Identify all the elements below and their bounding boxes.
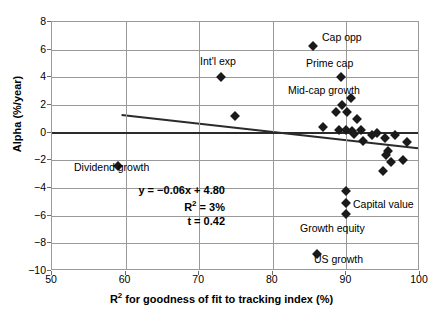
y-tick-label: −2 — [34, 153, 46, 165]
annotation-dividend-growth: Dividend growth — [74, 161, 149, 173]
gridline-horizontal — [52, 105, 418, 106]
regression-r-squared: R2 = 3% — [80, 197, 225, 214]
annotation-intl-exp: Int'l exp — [200, 55, 236, 67]
regression-t-stat: t = 0.42 — [80, 214, 225, 228]
y-axis-ticks: 86420−2−4−6−8−10 — [0, 21, 46, 270]
regression-equation-block: y = −0.06x + 4.80 R2 = 3% t = 0.42 — [80, 183, 225, 228]
annotation-capital-value: Capital value — [353, 198, 414, 210]
y-tick-label: −6 — [34, 209, 46, 221]
x-axis-title: R2 for goodness of fit to tracking index… — [0, 291, 443, 305]
annotation-growth-equity: Growth equity — [300, 222, 365, 234]
gridline-horizontal — [52, 243, 418, 244]
annotation-mid-cap-growth: Mid-cap growth — [288, 84, 360, 96]
gridline-vertical — [273, 22, 274, 269]
gridline-horizontal — [52, 50, 418, 51]
regression-equation: y = −0.06x + 4.80 — [80, 183, 225, 197]
y-tick-label: 8 — [40, 15, 46, 27]
gridline-vertical — [126, 22, 127, 269]
annotation-cap-opp: Cap opp — [322, 31, 362, 43]
x-axis-ticks: 5060708090100 — [51, 271, 419, 287]
y-tick-label: −4 — [34, 181, 46, 193]
x-tick-mark — [272, 271, 273, 275]
y-tick-label: 0 — [40, 126, 46, 138]
x-tick-mark — [345, 271, 346, 275]
annotation-prime-cap: Prime cap — [306, 57, 353, 69]
x-tick-mark — [198, 271, 199, 275]
gridline-horizontal — [52, 77, 418, 78]
scatter-chart: 86420−2−4−6−8−10 Alpha (%/year) 50607080… — [0, 0, 443, 318]
y-axis-title: Alpha (%/year) — [11, 49, 23, 179]
y-tick-label: 4 — [40, 70, 46, 82]
y-tick-label: −10 — [28, 264, 46, 276]
y-tick-label: 2 — [40, 98, 46, 110]
y-tick-label: −8 — [34, 236, 46, 248]
x-tick-mark — [419, 271, 420, 275]
x-tick-mark — [51, 271, 52, 275]
annotation-us-growth: US growth — [314, 253, 363, 265]
y-tick-label: 6 — [40, 43, 46, 55]
x-tick-mark — [125, 271, 126, 275]
x-axis-title-text: R2 for goodness of fit to tracking index… — [110, 293, 333, 305]
